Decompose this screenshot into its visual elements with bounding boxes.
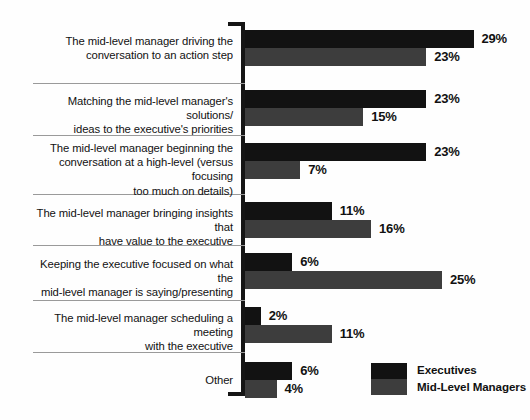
category-label-line: The mid-level manager bringing insights …: [25, 206, 233, 234]
bar-executives: [245, 90, 426, 108]
category-label: The mid-level manager beginning theconve…: [25, 141, 233, 198]
category-label-line: mid-level manager is saying/presenting: [25, 285, 233, 299]
bar-value-label: 16%: [379, 221, 404, 236]
category-label-line: too much on details): [25, 184, 233, 198]
bar-mid-level-managers: [245, 325, 332, 343]
category-label: The mid-level manager scheduling a meeti…: [25, 311, 233, 354]
bar-value-label: 23%: [434, 144, 459, 159]
category-label: The mid-level manager bringing insights …: [25, 206, 233, 249]
legend-swatch-executives: [371, 363, 407, 379]
category-label: The mid-level manager driving theconvers…: [25, 34, 233, 62]
category-label-line: The mid-level manager scheduling a meeti…: [25, 311, 233, 339]
bar-executives: [245, 307, 261, 325]
bar-value-label: 25%: [450, 272, 475, 287]
legend-label-group: Executives Mid-Level Managers: [417, 361, 526, 395]
bar-executives: [245, 30, 474, 48]
category-label-line: The mid-level manager driving the: [25, 34, 233, 48]
category-label-line: Keeping the executive focused on what th…: [25, 257, 233, 285]
legend-swatch-mid-level-managers: [371, 379, 407, 395]
category-label-line: with the executive: [25, 339, 233, 353]
bar-mid-level-managers: [245, 48, 426, 66]
category-label-line: The mid-level manager beginning the: [25, 141, 233, 155]
bar-executives: [245, 362, 292, 380]
bar-mid-level-managers: [245, 220, 371, 238]
bar-mid-level-managers: [245, 380, 277, 398]
legend-label-executives: Executives: [417, 361, 526, 378]
bar-value-label: 6%: [300, 363, 318, 378]
bar-value-label: 7%: [308, 162, 326, 177]
axis-tick-bottom: [228, 392, 245, 396]
row-divider: [33, 83, 245, 84]
bar-value-label: 29%: [482, 31, 507, 46]
horizontal-bar-chart: The mid-level manager driving theconvers…: [0, 0, 530, 420]
category-label-line: have value to the executive: [25, 234, 233, 248]
legend-label-mid-level-managers: Mid-Level Managers: [417, 378, 526, 395]
category-label-line: conversation to an action step: [25, 48, 233, 62]
bar-mid-level-managers: [245, 161, 300, 179]
bar-mid-level-managers: [245, 271, 442, 289]
bar-value-label: 23%: [434, 49, 459, 64]
bar-value-label: 23%: [434, 91, 459, 106]
bar-executives: [245, 202, 332, 220]
bar-value-label: 15%: [371, 109, 396, 124]
bar-value-label: 11%: [340, 326, 365, 341]
bar-value-label: 4%: [285, 381, 303, 396]
category-label-line: ideas to the executive's priorities: [25, 122, 233, 136]
legend-swatch-group: [371, 363, 407, 395]
category-label: Matching the mid-level manager's solutio…: [25, 94, 233, 137]
category-label-line: Matching the mid-level manager's solutio…: [25, 94, 233, 122]
bar-executives: [245, 253, 292, 271]
category-label-line: conversation at a high-level (versus foc…: [25, 155, 233, 183]
bar-executives: [245, 143, 426, 161]
bar-value-label: 6%: [300, 254, 318, 269]
category-label-line: Other: [25, 373, 233, 387]
bar-value-label: 11%: [340, 203, 365, 218]
axis-tick-top: [228, 22, 245, 26]
category-label: Keeping the executive focused on what th…: [25, 257, 233, 300]
category-label: Other: [25, 373, 233, 387]
bar-value-label: 2%: [269, 308, 287, 323]
bar-mid-level-managers: [245, 108, 363, 126]
row-divider: [33, 300, 245, 301]
